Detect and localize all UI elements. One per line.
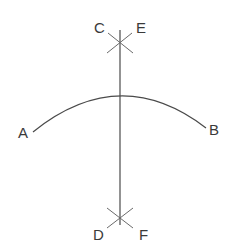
label-b: B (209, 121, 219, 138)
label-f: F (139, 226, 148, 243)
label-c: C (94, 19, 105, 36)
construction-diagram: A B C E D F (0, 0, 233, 247)
label-e: E (136, 19, 146, 36)
label-a: A (18, 124, 28, 141)
label-d: D (93, 226, 104, 243)
